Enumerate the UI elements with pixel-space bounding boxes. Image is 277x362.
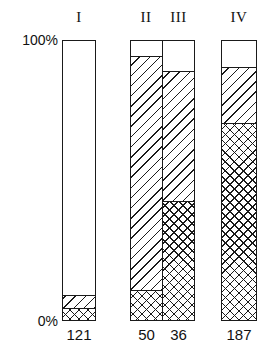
bar-iii: [162, 40, 195, 321]
bar-iv-segment-crosshatch: [222, 123, 256, 321]
bar-ii-segment-blank: [131, 41, 162, 56]
bar-iii-segment-crosshatch: [163, 201, 194, 321]
bar-ii-segment-crosshatch: [131, 290, 162, 321]
count-label-ii: 50: [130, 326, 163, 343]
group-header-ii: II: [130, 8, 162, 26]
bar-iii-segment-hatch: [163, 71, 194, 201]
bar-iv: [221, 40, 257, 321]
bar-iii-segment-blank: [163, 41, 194, 71]
group-header-iv: IV: [221, 8, 257, 26]
bar-i-segment-hatch: [63, 295, 95, 308]
bar-i-segment-crosshatch: [63, 308, 95, 321]
bar-iv-segment-hatch: [222, 67, 256, 123]
stacked-bar-chart: I II III IV 100% 0% 121 50 36 187: [0, 0, 277, 362]
bar-ii: [130, 40, 163, 321]
axis-label-0-percent: 0%: [6, 314, 58, 328]
count-label-iv: 187: [221, 326, 257, 343]
bar-i-segment-blank: [63, 41, 95, 295]
count-label-iii: 36: [162, 326, 195, 343]
count-label-i: 121: [62, 326, 96, 343]
bar-iv-segment-blank: [222, 41, 256, 67]
bar-i: [62, 40, 96, 321]
bar-ii-segment-hatch: [131, 56, 162, 290]
group-header-i: I: [62, 8, 96, 26]
group-header-iii: III: [162, 8, 195, 26]
axis-label-100-percent: 100%: [6, 33, 58, 47]
